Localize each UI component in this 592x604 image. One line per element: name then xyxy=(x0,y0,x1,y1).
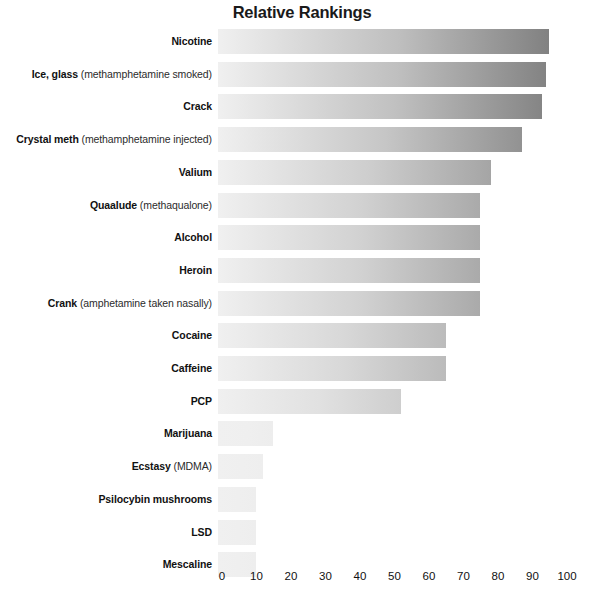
bar-row-psilocybin-mushrooms: Psilocybin mushrooms xyxy=(0,486,592,513)
bar-row-heroin: Heroin xyxy=(0,257,592,284)
bar-label-name: Nicotine xyxy=(171,35,212,47)
bar-label-psilocybin-mushrooms: Psilocybin mushrooms xyxy=(98,486,218,513)
bar-valium xyxy=(218,160,491,185)
x-tick-10: 10 xyxy=(250,570,263,582)
bar-label-name: Crack xyxy=(183,100,212,112)
chart-title: Relative Rankings xyxy=(0,3,592,22)
bar-crack xyxy=(218,94,542,119)
bar-psilocybin-mushrooms xyxy=(218,487,256,512)
x-tick-30: 30 xyxy=(319,570,332,582)
bar-label-name: Alcohol xyxy=(174,231,212,243)
bar-label-name: LSD xyxy=(191,526,212,538)
bar-row-pcp: PCP xyxy=(0,388,592,415)
bar-label-ecstasy: Ecstasy (MDMA) xyxy=(132,453,218,480)
bar-label-name: Mescaline xyxy=(163,558,212,570)
bar-row-cocaine: Cocaine xyxy=(0,322,592,349)
bar-label-crack: Crack xyxy=(183,93,218,120)
bar-quaalude xyxy=(218,193,480,218)
bar-row-lsd: LSD xyxy=(0,519,592,546)
bar-row-nicotine: Nicotine xyxy=(0,28,592,55)
bar-pcp xyxy=(218,389,401,414)
x-tick-90: 90 xyxy=(526,570,539,582)
bar-label-qualifier: (methamphetamine smoked) xyxy=(78,68,212,80)
bar-label-qualifier: (methamphetamine injected) xyxy=(79,133,212,145)
bar-label-name: Crystal meth xyxy=(16,133,78,145)
x-tick-70: 70 xyxy=(457,570,470,582)
bar-row-marijuana: Marijuana xyxy=(0,420,592,447)
bar-crystal-meth xyxy=(218,127,522,152)
bar-row-alcohol: Alcohol xyxy=(0,224,592,251)
bar-row-ecstasy: Ecstasy (MDMA) xyxy=(0,453,592,480)
bar-label-name: PCP xyxy=(191,395,212,407)
x-tick-20: 20 xyxy=(285,570,298,582)
bar-heroin xyxy=(218,258,480,283)
bar-caffeine xyxy=(218,356,446,381)
plot-area: NicotineIce, glass (methamphetamine smok… xyxy=(0,28,592,568)
bar-label-quaalude: Quaalude (methaqualone) xyxy=(90,192,218,219)
x-tick-50: 50 xyxy=(388,570,401,582)
bar-label-crank: Crank (amphetamine taken nasally) xyxy=(48,290,218,317)
bar-row-caffeine: Caffeine xyxy=(0,355,592,382)
bar-label-nicotine: Nicotine xyxy=(171,28,218,55)
x-tick-0: 0 xyxy=(219,570,225,582)
x-tick-100: 100 xyxy=(557,570,576,582)
bar-label-ice-glass: Ice, glass (methamphetamine smoked) xyxy=(32,61,218,88)
bar-cocaine xyxy=(218,323,446,348)
bar-ecstasy xyxy=(218,454,263,479)
bar-label-caffeine: Caffeine xyxy=(171,355,218,382)
x-tick-60: 60 xyxy=(423,570,436,582)
bar-label-name: Caffeine xyxy=(171,362,212,374)
bar-label-pcp: PCP xyxy=(191,388,218,415)
bar-row-crystal-meth: Crystal meth (methamphetamine injected) xyxy=(0,126,592,153)
bar-label-qualifier: (MDMA) xyxy=(171,460,212,472)
bar-label-name: Crank xyxy=(48,297,77,309)
x-axis: 0102030405060708090100 xyxy=(0,570,592,590)
bar-marijuana xyxy=(218,421,273,446)
bar-nicotine xyxy=(218,29,549,54)
bar-label-marijuana: Marijuana xyxy=(164,420,218,447)
bar-label-name: Marijuana xyxy=(164,427,212,439)
bar-row-quaalude: Quaalude (methaqualone) xyxy=(0,192,592,219)
bar-label-name: Heroin xyxy=(179,264,212,276)
bar-row-crack: Crack xyxy=(0,93,592,120)
bar-crank xyxy=(218,291,480,316)
bar-label-name: Ice, glass xyxy=(32,68,78,80)
bar-alcohol xyxy=(218,225,480,250)
bar-row-crank: Crank (amphetamine taken nasally) xyxy=(0,290,592,317)
bar-row-ice-glass: Ice, glass (methamphetamine smoked) xyxy=(0,61,592,88)
bar-label-alcohol: Alcohol xyxy=(174,224,218,251)
bar-label-name: Ecstasy xyxy=(132,460,171,472)
bar-label-valium: Valium xyxy=(179,159,218,186)
chart-page: Relative Rankings NicotineIce, glass (me… xyxy=(0,0,592,604)
bar-row-valium: Valium xyxy=(0,159,592,186)
bar-label-qualifier: (amphetamine taken nasally) xyxy=(77,297,212,309)
bar-label-name: Valium xyxy=(179,166,212,178)
bar-label-heroin: Heroin xyxy=(179,257,218,284)
bar-label-qualifier: (methaqualone) xyxy=(137,199,212,211)
bar-label-name: Cocaine xyxy=(172,329,212,341)
x-tick-80: 80 xyxy=(492,570,505,582)
bar-label-name: Quaalude xyxy=(90,199,137,211)
bar-label-crystal-meth: Crystal meth (methamphetamine injected) xyxy=(16,126,218,153)
bar-label-name: Psilocybin mushrooms xyxy=(98,493,212,505)
bar-label-cocaine: Cocaine xyxy=(172,322,218,349)
bar-lsd xyxy=(218,520,256,545)
bar-label-lsd: LSD xyxy=(191,519,218,546)
x-tick-40: 40 xyxy=(354,570,367,582)
bar-ice-glass xyxy=(218,62,546,87)
